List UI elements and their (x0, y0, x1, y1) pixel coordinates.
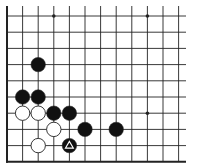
black-stone-icon (47, 106, 61, 120)
black-stone-icon (78, 122, 92, 136)
black-stone-icon (62, 106, 76, 120)
white-stone-icon (31, 106, 45, 120)
black-stone-icon (31, 57, 45, 71)
black-stone-icon (109, 122, 123, 136)
go-board-diagram (0, 0, 198, 165)
white-stone-icon (31, 138, 45, 152)
white-stone-icon (15, 106, 29, 120)
black-stone-icon (31, 90, 45, 104)
white-stone-icon (47, 122, 61, 136)
grid-lines (6, 6, 186, 163)
star-point-icon (146, 111, 150, 115)
star-point-icon (146, 14, 150, 18)
black-stone-icon (15, 90, 29, 104)
star-point-icon (52, 14, 56, 18)
